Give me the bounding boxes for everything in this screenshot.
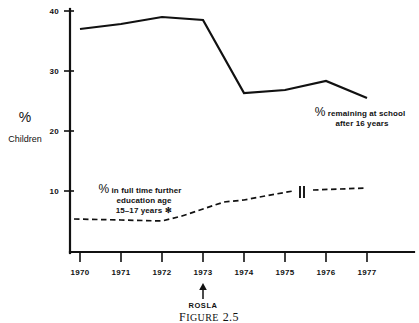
x-tick-label-1971: 1971 <box>112 268 131 277</box>
figure-caption-number: 2.5 <box>223 310 239 323</box>
x-tick-label-1975: 1975 <box>276 268 295 277</box>
annotation-solid-line2: after 16 years <box>336 119 389 128</box>
annotation-solid-line1: remaining at school <box>325 109 405 118</box>
svg-text:% remaining at school: % remaining at school <box>315 105 406 119</box>
y-axis-title-children: Children <box>8 134 42 144</box>
y-tick-label-40: 40 <box>50 7 60 16</box>
series-line-further-education-right <box>313 188 367 190</box>
x-tick-label-1972: 1972 <box>153 268 172 277</box>
x-ticks-group: 1970 1971 1972 1973 1974 1975 1976 1977 <box>71 252 377 277</box>
y-tick-label-10: 10 <box>50 187 60 196</box>
y-axis-title-group: % Children <box>8 109 42 144</box>
y-tick-label-20: 20 <box>50 127 60 136</box>
annotation-dashed-line3: 15–17 years <box>116 206 163 215</box>
percent-glyph-solid: % <box>315 105 326 119</box>
x-tick-label-1970: 1970 <box>71 268 90 277</box>
svg-text:% in full time further: % in full time further <box>98 182 181 196</box>
chart-svg: 40 30 20 10 % Children 1970 1971 1972 19… <box>0 0 419 323</box>
annotation-further-education: % in full time further education age 15–… <box>98 182 181 215</box>
break-marker-icon <box>300 186 304 198</box>
axes-group <box>70 9 414 253</box>
x-tick-label-1973: 1973 <box>194 268 213 277</box>
y-axis-title-percent: % <box>19 109 31 125</box>
figure-container: 40 30 20 10 % Children 1970 1971 1972 19… <box>0 0 419 323</box>
figure-caption: FIGURE2.5 <box>179 310 239 323</box>
annotation-dashed-line2: education age <box>116 196 172 205</box>
x-tick-label-1977: 1977 <box>358 268 377 277</box>
rosla-label: ROSLA <box>188 301 217 310</box>
footnote-marker-icon: ✻ <box>165 206 172 215</box>
rosla-arrow-head-icon <box>199 283 207 290</box>
svg-text:15–17 years✻: 15–17 years✻ <box>116 206 173 215</box>
annotation-remaining-at-school: % remaining at school after 16 years <box>315 105 406 128</box>
y-tick-label-30: 30 <box>50 67 60 76</box>
annotation-dashed-line1: in full time further <box>109 186 181 195</box>
percent-glyph-dashed: % <box>98 182 109 196</box>
series-line-remaining-at-school <box>80 17 367 98</box>
figure-caption-word: IGURE <box>186 312 219 323</box>
x-tick-label-1974: 1974 <box>235 268 254 277</box>
figure-caption-prefix: F <box>179 310 186 323</box>
rosla-marker-group: ROSLA <box>188 283 217 310</box>
x-tick-label-1976: 1976 <box>317 268 336 277</box>
